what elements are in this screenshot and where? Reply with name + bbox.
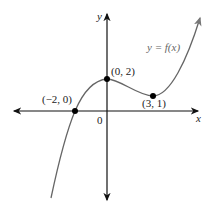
point-label-neg2-0: (−2, 0) xyxy=(42,94,72,105)
point-0-2 xyxy=(104,76,110,82)
graph-canvas xyxy=(0,0,211,221)
origin-label: 0 xyxy=(97,115,103,126)
point-neg2-0 xyxy=(72,108,78,114)
function-label: y = f(x) xyxy=(147,42,180,53)
point-label-0-2: (0, 2) xyxy=(111,66,135,77)
y-axis-label: y xyxy=(97,11,102,22)
point-label-3-1: (3, 1) xyxy=(142,98,166,109)
x-axis-label: x xyxy=(196,113,201,124)
